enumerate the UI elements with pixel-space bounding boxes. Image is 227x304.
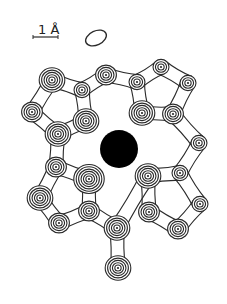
envelope-contour-p20-p12-a	[186, 147, 205, 177]
density-peak-p10	[129, 101, 155, 125]
contour-peaks	[22, 59, 208, 280]
density-peak-p5	[73, 109, 99, 133]
peak-center-dot	[116, 227, 118, 229]
density-peak-p7	[129, 74, 145, 89]
peak-center-dot	[187, 82, 189, 84]
peak-center-dot	[199, 203, 201, 205]
envelope-contour-p23-p20-a	[186, 169, 206, 200]
density-peak-p18	[104, 216, 130, 240]
peak-center-dot	[172, 113, 174, 115]
density-peak-p21	[139, 202, 160, 222]
density-peak-p1	[39, 68, 65, 92]
density-peak-p19	[135, 164, 161, 188]
density-peak-p16	[49, 213, 70, 233]
density-peak-p17	[79, 201, 100, 221]
peak-center-dot	[117, 267, 119, 269]
density-peak-p24	[105, 256, 131, 280]
scale-bar: 1 Å	[33, 22, 59, 39]
density-peak-p15	[27, 186, 53, 210]
peak-center-dot	[177, 228, 179, 230]
density-peak-p23	[192, 196, 208, 211]
peak-center-dot	[105, 74, 107, 76]
density-peak-p20	[172, 165, 188, 180]
peak-center-dot	[160, 66, 162, 68]
density-peak-p4	[74, 82, 90, 97]
density-peak-p12	[191, 135, 207, 150]
peak-center-dot	[31, 111, 33, 113]
density-peak-p22	[168, 219, 189, 239]
density-peak-p9	[180, 75, 196, 90]
peak-center-dot	[136, 81, 138, 83]
density-peak-p6	[96, 65, 117, 85]
density-peak-p3	[45, 122, 71, 146]
peak-center-dot	[198, 142, 200, 144]
density-peak-p14	[74, 165, 104, 194]
peak-center-dot	[57, 133, 59, 135]
peak-center-dot	[179, 172, 181, 174]
peak-center-dot	[88, 210, 90, 212]
peak-center-dot	[58, 222, 60, 224]
peak-center-dot	[51, 79, 53, 81]
density-contour-map: 1 Å	[0, 0, 227, 304]
isolated-contour	[83, 27, 109, 49]
central-atom-disk	[100, 130, 138, 168]
peak-center-dot	[141, 112, 143, 114]
peak-center-dot	[148, 211, 150, 213]
scale-bar-label: 1 Å	[38, 22, 59, 37]
peak-center-dot	[88, 178, 90, 180]
density-peak-p8	[153, 59, 169, 74]
peak-center-dot	[147, 175, 149, 177]
density-peak-p2	[22, 102, 43, 122]
peak-center-dot	[39, 197, 41, 199]
peak-center-dot	[55, 166, 57, 168]
density-peak-p13	[46, 157, 67, 177]
peak-center-dot	[81, 89, 83, 91]
peak-center-dot	[85, 120, 87, 122]
density-peak-p11	[163, 104, 184, 124]
